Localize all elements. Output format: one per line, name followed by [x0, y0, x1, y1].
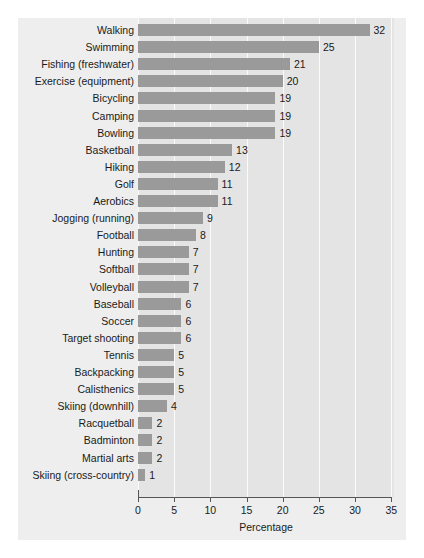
bar — [138, 469, 145, 481]
category-label: Camping — [18, 110, 134, 122]
category-label: Exercise (equipment) — [18, 75, 134, 87]
category-label: Basketball — [18, 144, 134, 156]
bar-value-label: 7 — [193, 281, 199, 293]
gridline — [283, 18, 284, 497]
category-label: Bowling — [18, 127, 134, 139]
bar — [138, 24, 370, 36]
bar-value-label: 8 — [200, 229, 206, 241]
x-axis-tick-label: 0 — [123, 504, 153, 516]
bar-value-label: 7 — [193, 263, 199, 275]
bar-value-label: 5 — [178, 366, 184, 378]
bar-value-label: 21 — [294, 58, 306, 70]
x-axis-tick-label: 35 — [376, 504, 406, 516]
gridline — [355, 18, 356, 497]
x-axis-tick — [283, 497, 284, 502]
category-label: Bicycling — [18, 92, 134, 104]
bar — [138, 92, 275, 104]
category-label: Softball — [18, 263, 134, 275]
category-label: Walking — [18, 24, 134, 36]
x-axis-tick — [391, 497, 392, 502]
bar — [138, 315, 181, 327]
category-label: Swimming — [18, 41, 134, 53]
bar — [138, 144, 232, 156]
bar-value-label: 4 — [171, 400, 177, 412]
bar — [138, 281, 189, 293]
category-label: Golf — [18, 178, 134, 190]
bar-value-label: 6 — [185, 332, 191, 344]
category-label: Volleyball — [18, 281, 134, 293]
bar-value-label: 2 — [156, 452, 162, 464]
category-label: Baseball — [18, 298, 134, 310]
category-label: Fishing (freshwater) — [18, 58, 134, 70]
category-label: Jogging (running) — [18, 212, 134, 224]
bar-value-label: 9 — [207, 212, 213, 224]
chart-figure: WalkingSwimmingFishing (freshwater)Exerc… — [0, 0, 424, 558]
bar — [138, 41, 319, 53]
category-label: Tennis — [18, 349, 134, 361]
category-label: Martial arts — [18, 452, 134, 464]
category-label: Target shooting — [18, 332, 134, 344]
bar — [138, 383, 174, 395]
bar-value-label: 7 — [193, 246, 199, 258]
bar — [138, 263, 189, 275]
bar — [138, 178, 218, 190]
bar — [138, 212, 203, 224]
bar-value-label: 19 — [279, 92, 291, 104]
bar — [138, 161, 225, 173]
category-label: Skiing (cross-country) — [18, 469, 134, 481]
x-axis-tick-label: 30 — [340, 504, 370, 516]
bar-value-label: 25 — [323, 41, 335, 53]
category-label: Racquetball — [18, 417, 134, 429]
category-label: Hiking — [18, 161, 134, 173]
x-axis-tick-label: 25 — [304, 504, 334, 516]
x-axis-tick — [210, 497, 211, 502]
bar — [138, 110, 275, 122]
bar-value-label: 1 — [149, 469, 155, 481]
gridline — [210, 18, 211, 497]
bar — [138, 127, 275, 139]
bar — [138, 58, 290, 70]
x-axis-tick — [138, 497, 139, 502]
bar — [138, 332, 181, 344]
bar-value-label: 12 — [229, 161, 241, 173]
category-label: Hunting — [18, 246, 134, 258]
bar — [138, 349, 174, 361]
gridline — [247, 18, 248, 497]
category-label: Soccer — [18, 315, 134, 327]
bar-value-label: 19 — [279, 127, 291, 139]
bar — [138, 417, 152, 429]
category-label: Aerobics — [18, 195, 134, 207]
bar-value-label: 6 — [185, 298, 191, 310]
bar — [138, 298, 181, 310]
gridline — [391, 18, 392, 497]
bar — [138, 434, 152, 446]
bar-value-label: 32 — [374, 24, 386, 36]
category-label: Calisthenics — [18, 383, 134, 395]
bar-value-label: 5 — [178, 349, 184, 361]
category-axis-labels: WalkingSwimmingFishing (freshwater)Exerc… — [18, 18, 134, 493]
bar-value-label: 6 — [185, 315, 191, 327]
bar — [138, 452, 152, 464]
bar — [138, 366, 174, 378]
x-axis-tick — [355, 497, 356, 502]
bar — [138, 229, 196, 241]
bar — [138, 75, 283, 87]
x-axis-tick — [247, 497, 248, 502]
bar-value-label: 2 — [156, 417, 162, 429]
x-axis-tick — [174, 497, 175, 502]
bar — [138, 246, 189, 258]
bar-value-label: 5 — [178, 383, 184, 395]
bar-value-label: 20 — [287, 75, 299, 87]
bar-value-label: 11 — [222, 195, 233, 207]
bar-value-label: 19 — [279, 110, 291, 122]
category-label: Skiing (downhill) — [18, 400, 134, 412]
x-axis-tick-label: 10 — [195, 504, 225, 516]
gridline — [319, 18, 320, 497]
category-label: Football — [18, 229, 134, 241]
bar-value-label: 13 — [236, 144, 248, 156]
x-axis-line — [138, 497, 392, 498]
x-axis-title: Percentage — [138, 521, 394, 533]
bar — [138, 195, 218, 207]
x-axis-tick-label: 20 — [268, 504, 298, 516]
category-label: Badminton — [18, 434, 134, 446]
